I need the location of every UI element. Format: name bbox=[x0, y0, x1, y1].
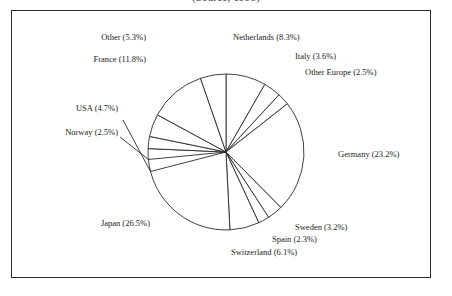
slice-label-france: France (11.8%) bbox=[30, 55, 146, 64]
slice-label-japan: Japan (26.5%) bbox=[45, 219, 150, 228]
slice-label-switzerland: Switzerland (6.1%) bbox=[231, 248, 297, 257]
pie-slices bbox=[148, 74, 304, 230]
pie-chart bbox=[0, 0, 452, 296]
slice-label-spain: Spain (2.3%) bbox=[272, 235, 317, 244]
slice-label-usa: USA (4.7%) bbox=[18, 104, 118, 113]
pie-slice-japan bbox=[148, 149, 230, 230]
slice-label-netherlands: Netherlands (8.3%) bbox=[233, 33, 300, 42]
slice-label-italy: Italy (3.6%) bbox=[295, 52, 336, 61]
slice-label-germany: Germany (23.2%) bbox=[338, 150, 399, 159]
slice-label-other: Other (5.3%) bbox=[30, 33, 146, 42]
chart-page: (Source, 1998) Other (5.3%) Netherlands … bbox=[0, 0, 452, 296]
slice-label-other-europe: Other Europe (2.5%) bbox=[305, 68, 377, 77]
slice-label-norway: Norway (2.5%) bbox=[18, 128, 118, 137]
slice-label-sweden: Sweden (3.2%) bbox=[295, 223, 347, 232]
